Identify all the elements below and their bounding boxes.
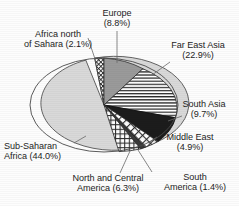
label-south-asia-value: (9.7%) [172, 109, 236, 119]
label-north-central-name: North and Central [56, 173, 160, 183]
leader-line-south-america [138, 150, 152, 172]
pie-chart-figure: Europe (8.8%) Africa north of Sahara (2.… [0, 0, 239, 206]
label-north-and-central-america: North and Central America (6.3%) [56, 173, 160, 194]
label-north-central-value: America (6.3%) [56, 183, 160, 193]
label-europe-name: Europe [86, 8, 148, 18]
label-middle-east: Middle East (4.9%) [156, 132, 224, 153]
label-far-east-asia-name: Far East Asia [160, 40, 236, 50]
label-sub-saharan-value: Africa (44.0%) [4, 151, 80, 161]
label-sub-saharan-name: Sub-Saharan [4, 141, 80, 151]
label-africa-north-of-sahara: Africa north of Sahara (2.1%) [6, 29, 110, 50]
label-middle-east-value: (4.9%) [156, 142, 224, 152]
label-south-asia: South Asia (9.7%) [172, 99, 236, 120]
label-south-america-name: South [152, 172, 238, 182]
label-south-america-value: America (1.4%) [152, 182, 238, 192]
label-africa-north-value: of Sahara (2.1%) [6, 39, 110, 49]
label-far-east-asia-value: (22.9%) [160, 50, 236, 60]
label-south-asia-name: South Asia [172, 99, 236, 109]
label-middle-east-name: Middle East [156, 132, 224, 142]
leader-line-north-central-america [120, 151, 130, 173]
label-sub-saharan-africa: Sub-Saharan Africa (44.0%) [4, 141, 80, 162]
label-africa-north-name: Africa north [6, 29, 110, 39]
label-europe: Europe (8.8%) [86, 8, 148, 29]
label-south-america: South America (1.4%) [152, 172, 238, 193]
label-europe-value: (8.8%) [86, 18, 148, 28]
label-far-east-asia: Far East Asia (22.9%) [160, 40, 236, 61]
